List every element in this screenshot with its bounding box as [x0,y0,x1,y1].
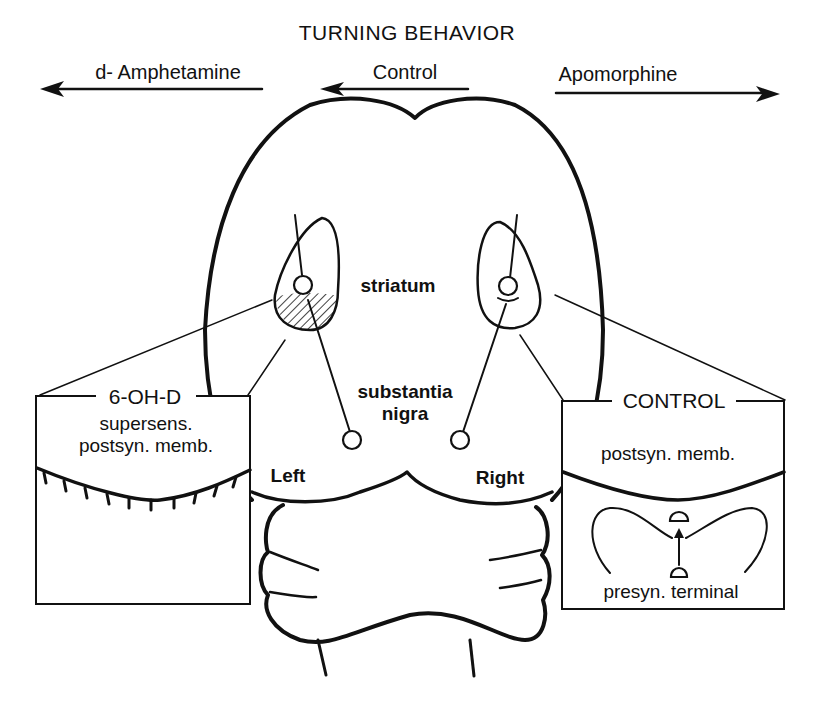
receptor-icon [670,512,688,521]
cerebellum-fold [500,580,541,588]
apomorphine-label: Apomorphine [559,63,678,85]
brain-outline [205,99,603,500]
cerebellum-fold [490,550,541,560]
striatum-label: striatum [361,275,436,296]
electrode-tip [294,276,312,294]
apomorphine-arrow: Apomorphine [556,63,780,102]
control-arrow-label: Control [373,61,437,83]
substantia-nigra-left-marker [343,431,361,449]
turning-behavior-diagram: TURNING BEHAVIOR d- Amphetamine Control … [0,0,814,706]
substantia-nigra-label-line1: substantia [357,381,452,402]
left-inset-line2: postsyn. memb. [79,435,213,456]
left-inset-connector [248,340,285,395]
left-striatum [275,215,361,449]
electrode-tip [499,277,517,295]
control-arrow: Control [320,61,468,96]
right-inset-postsyn-label: postsyn. memb. [601,443,735,464]
right-inset-connector [520,335,563,400]
left-inset-6ohd: 6-OH-D supersens. postsyn. memb. [36,384,250,604]
left-inset-heading: 6-OH-D [109,385,181,408]
substantia-nigra-label-line2: nigra [382,403,429,424]
amphetamine-label: d- Amphetamine [95,61,241,83]
left-inset-line1: supersens. [100,413,193,434]
brainstem-stub-left [318,640,326,675]
substantia-nigra-right-marker [451,431,469,449]
transmitter-release-site-icon [671,568,687,577]
brainstem-stub-right [470,640,474,676]
right-hemisphere-label: Right [476,467,525,488]
cerebellum-fold [270,552,318,570]
amphetamine-arrow: d- Amphetamine [40,61,262,97]
cerebellum [261,505,550,642]
cerebellum-fold [270,592,316,597]
right-inset-control: CONTROL postsyn. memb. presyn. terminal [562,388,784,609]
left-inset-connector [40,300,272,395]
right-inset-connector [555,295,785,400]
diagram-title: TURNING BEHAVIOR [299,21,515,44]
left-hemisphere-label: Left [271,465,307,486]
right-inset-heading: CONTROL [623,389,726,412]
right-inset-presyn-label: presyn. terminal [603,581,738,602]
right-striatum [451,215,540,449]
